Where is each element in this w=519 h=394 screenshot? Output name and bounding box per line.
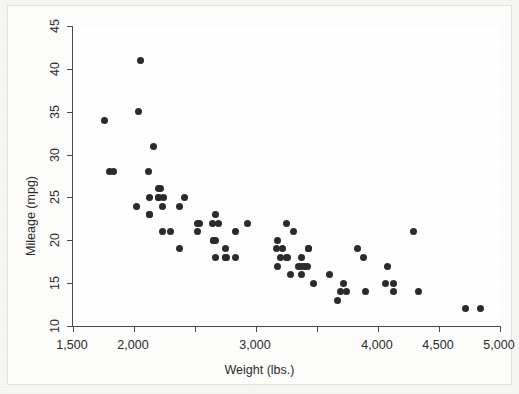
scatter-point xyxy=(384,263,391,270)
scatter-point xyxy=(274,263,281,270)
y-axis-tick xyxy=(67,283,73,284)
scatter-point xyxy=(232,254,239,261)
x-axis-tick-label: 4,000 xyxy=(361,338,392,352)
y-axis-tick xyxy=(67,69,73,70)
scatter-point xyxy=(159,228,166,235)
y-axis-tick-label: 15 xyxy=(48,276,62,290)
scatter-point xyxy=(194,220,201,227)
y-axis-tick-label: 20 xyxy=(48,233,62,247)
scatter-point xyxy=(334,297,341,304)
y-axis-tick xyxy=(67,26,73,27)
scatter-point xyxy=(273,245,280,252)
scatter-point xyxy=(305,245,312,252)
scatter-point xyxy=(390,280,397,287)
scatter-point xyxy=(176,203,183,210)
scatter-point xyxy=(290,228,297,235)
scatter-point xyxy=(277,254,284,261)
scatter-point xyxy=(283,254,290,261)
scatter-point xyxy=(210,237,217,244)
scatter-point xyxy=(176,245,183,252)
x-axis-tick xyxy=(317,326,318,332)
scatter-point xyxy=(310,280,317,287)
x-axis-tick-label: 3,000 xyxy=(239,338,270,352)
scatter-point xyxy=(462,305,469,312)
scatter-point xyxy=(298,271,305,278)
scatter-point xyxy=(110,168,117,175)
scatter-point xyxy=(232,228,239,235)
scatter-point xyxy=(133,203,140,210)
x-axis-tick xyxy=(378,326,379,332)
y-axis-tick-label: 35 xyxy=(48,105,62,119)
y-axis-tick-label: 25 xyxy=(48,190,62,204)
y-axis-tick xyxy=(67,197,73,198)
y-axis-tick-label: 10 xyxy=(48,319,62,333)
scatter-point xyxy=(304,263,311,270)
scatter-point xyxy=(244,220,251,227)
scatter-point xyxy=(212,254,219,261)
scatter-point xyxy=(283,220,290,227)
y-axis-title: Mileage (mpg) xyxy=(24,176,38,256)
scatter-point xyxy=(287,271,294,278)
scatter-point xyxy=(155,194,162,201)
x-axis-tick-label: 5,000 xyxy=(483,338,514,352)
scatter-point xyxy=(279,245,286,252)
scatter-point xyxy=(101,117,108,124)
scatter-point xyxy=(181,194,188,201)
y-axis-tick-label: 45 xyxy=(48,19,62,33)
scatter-point xyxy=(215,220,222,227)
y-axis-tick xyxy=(67,155,73,156)
x-axis-tick xyxy=(439,326,440,332)
chart-paper: Mileage (mpg) Weight (lbs.) 101520253035… xyxy=(7,5,512,385)
y-axis-tick xyxy=(67,240,73,241)
scatter-point xyxy=(137,57,144,64)
scatter-point xyxy=(360,254,367,261)
scatter-point xyxy=(222,254,229,261)
x-axis-title: Weight (lbs.) xyxy=(8,363,511,377)
figure-canvas: Mileage (mpg) Weight (lbs.) 101520253035… xyxy=(0,0,519,394)
x-axis-tick-label: 4,500 xyxy=(422,338,453,352)
scatter-point xyxy=(135,108,142,115)
scatter-point xyxy=(145,168,152,175)
scatter-point xyxy=(410,228,417,235)
scatter-point xyxy=(194,228,201,235)
scatter-point xyxy=(298,254,305,261)
scatter-point xyxy=(274,237,281,244)
x-axis-tick xyxy=(195,326,196,332)
scatter-point xyxy=(212,211,219,218)
scatter-point xyxy=(146,211,153,218)
scatter-point xyxy=(159,203,166,210)
scatter-plot-area xyxy=(72,26,500,327)
x-axis-tick-label: 2,000 xyxy=(117,338,148,352)
x-axis-tick xyxy=(500,326,501,332)
x-axis-tick xyxy=(256,326,257,332)
x-axis-tick xyxy=(134,326,135,332)
scatter-point xyxy=(362,288,369,295)
scatter-point xyxy=(167,228,174,235)
scatter-point xyxy=(150,143,157,150)
x-axis-tick-label: 1,500 xyxy=(56,338,87,352)
scatter-point xyxy=(390,288,397,295)
y-axis-tick-label: 30 xyxy=(48,148,62,162)
scatter-point xyxy=(326,271,333,278)
y-axis-tick xyxy=(67,112,73,113)
scatter-point xyxy=(382,280,389,287)
scatter-point xyxy=(343,288,350,295)
x-axis-tick xyxy=(73,326,74,332)
scatter-point xyxy=(477,305,484,312)
y-axis-tick-label: 40 xyxy=(48,62,62,76)
scatter-point xyxy=(222,245,229,252)
scatter-point xyxy=(337,288,344,295)
scatter-point xyxy=(298,263,305,270)
scatter-point xyxy=(146,194,153,201)
scatter-point xyxy=(415,288,422,295)
scatter-point xyxy=(354,245,361,252)
scatter-point xyxy=(340,280,347,287)
